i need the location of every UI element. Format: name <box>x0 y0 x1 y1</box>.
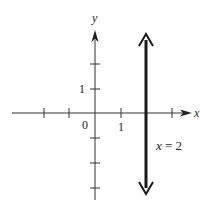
x-tick-label-1: 1 <box>118 120 124 134</box>
line-equation-label: x = 2 <box>155 138 182 153</box>
y-axis-label: y <box>91 11 98 25</box>
origin-label: 0 <box>82 118 88 132</box>
y-axis <box>90 30 100 200</box>
equation-value: = 2 <box>162 138 182 153</box>
x-axis-label: x <box>193 106 200 120</box>
x-axis <box>12 108 192 118</box>
y-tick-label-1: 1 <box>79 82 85 96</box>
coordinate-plane: y x 0 1 1 x = 2 <box>0 0 200 200</box>
line-x-equals-2 <box>139 34 153 194</box>
